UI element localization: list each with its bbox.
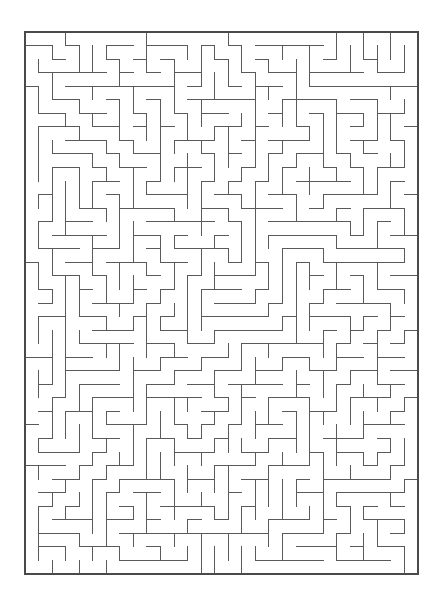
maze-svg bbox=[0, 0, 444, 610]
maze-figure bbox=[0, 0, 444, 610]
maze-background bbox=[0, 0, 444, 610]
maze-page bbox=[0, 0, 444, 610]
